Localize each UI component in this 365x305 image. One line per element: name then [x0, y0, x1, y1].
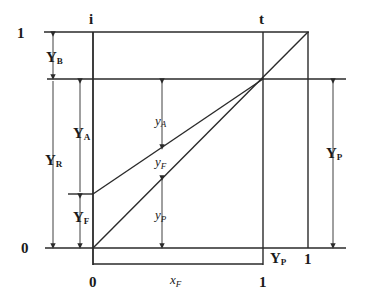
- label-i: i: [89, 11, 93, 27]
- label-YR: YR: [45, 152, 63, 169]
- label-origin-0: 0: [89, 274, 97, 290]
- label-yF: yF: [153, 154, 167, 171]
- label-right-1: 1: [304, 251, 312, 267]
- label-YP-right: YP: [326, 145, 343, 162]
- upper-operating-line: [93, 79, 263, 194]
- diagram-canvas: i t 1 0 0 1 1 YB YA YR YF YP YP yA yF yP…: [0, 0, 365, 305]
- label-axis-top-1: 1: [17, 25, 25, 41]
- label-t: t: [259, 11, 264, 27]
- label-yP: yP: [153, 207, 167, 224]
- label-YB: YB: [46, 49, 63, 66]
- label-yA: yA: [153, 113, 167, 129]
- diagonal-line: [93, 32, 308, 248]
- label-YA: YA: [73, 125, 91, 142]
- label-YF: YF: [73, 209, 90, 226]
- label-axis-bottom-0: 0: [21, 240, 29, 256]
- label-t-1: 1: [259, 274, 267, 290]
- label-xF: xF: [169, 272, 182, 289]
- label-YP-bottom: YP: [270, 250, 287, 267]
